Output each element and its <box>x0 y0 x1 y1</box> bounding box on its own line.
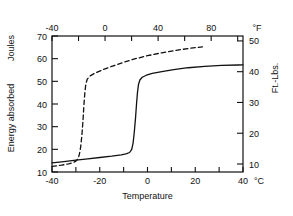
y-ticklabel-right: 30 <box>249 98 259 108</box>
y-ticklabel-left: 50 <box>37 77 47 87</box>
x-ticklabel-bottom: 0 <box>145 176 150 186</box>
y-axis-unit-ftlbs: Ft.-Lbs. <box>270 63 280 94</box>
y-ticklabel-left: 20 <box>37 145 47 155</box>
x-ticklabel-top: 80 <box>206 23 216 33</box>
x-ticklabel-bottom: 20 <box>190 176 200 186</box>
x-ticklabel-bottom: -20 <box>93 176 106 186</box>
x-ticklabel-top: -40 <box>45 23 58 33</box>
dashed-transition-curve <box>52 47 202 166</box>
x-axis-title: Temperature <box>122 191 173 201</box>
y-ticklabel-right: 50 <box>249 36 259 46</box>
y-ticklabel-right: 40 <box>249 67 259 77</box>
y-ticklabel-left: 40 <box>37 100 47 110</box>
y-ticklabel-left: 30 <box>37 122 47 132</box>
y-ticklabel-right: 20 <box>249 129 259 139</box>
y-ticklabel-left: 70 <box>37 32 47 42</box>
y-axis-title-left: Energy absorbed <box>6 84 16 153</box>
y-ticklabel-left: 60 <box>37 54 47 64</box>
x-ticklabel-bottom: 40 <box>238 176 248 186</box>
y-ticklabel-left: 10 <box>37 168 47 178</box>
x-ticklabel-top: 40 <box>153 23 163 33</box>
x-ticklabel-top: 0 <box>103 23 108 33</box>
plot-frame <box>52 36 243 172</box>
chart-figure: -40-2002040°C-4004080°F10203040506070102… <box>0 0 293 216</box>
x-ticklabel-bottom: -40 <box>45 176 58 186</box>
y-ticklabel-right: 10 <box>249 160 259 170</box>
x-unit-fahrenheit: °F <box>252 23 262 33</box>
x-unit-celsius: °C <box>254 176 265 186</box>
y-axis-unit-joules: Joules <box>6 34 16 61</box>
charpy-impact-chart: -40-2002040°C-4004080°F10203040506070102… <box>0 0 293 216</box>
